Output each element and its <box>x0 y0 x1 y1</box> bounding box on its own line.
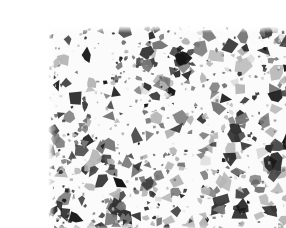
texture-page <box>0 0 286 228</box>
mosaic-texture-figure <box>40 16 286 228</box>
mosaic-texture-canvas <box>40 16 286 228</box>
